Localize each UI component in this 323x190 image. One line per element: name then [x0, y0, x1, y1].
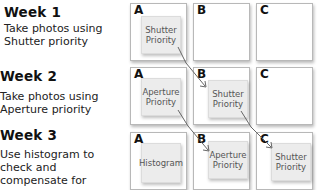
column-label-c: C — [260, 133, 269, 146]
note-aperture-priority: AperturePriority — [208, 141, 248, 179]
row2-box-a: A AperturePriority — [130, 67, 187, 125]
note-text-line1: Aperture — [209, 150, 246, 160]
column-label-b: B — [197, 68, 206, 81]
week-1-block: Week 1 Take photos using Shutter priorit… — [4, 5, 104, 48]
row3-box-b: B AperturePriority — [193, 132, 250, 190]
row1-box-b: B — [193, 3, 250, 61]
note-text-line2: Priority — [275, 162, 307, 172]
week-2-description: Take photos using Aperture priority — [0, 90, 100, 116]
column-label-c: C — [260, 68, 269, 81]
week-1-description: Take photos using Shutter priority — [4, 22, 104, 48]
note-text-line1: Histogram — [139, 158, 183, 168]
row1-box-c: C — [256, 3, 313, 61]
row2-box-c: C — [256, 67, 313, 125]
row2-box-b: B ShutterPriority — [193, 67, 250, 125]
note-shutter-priority: ShutterPriority — [208, 80, 248, 118]
note-text-line2: Priority — [145, 35, 177, 45]
note-text-line1: Shutter — [275, 152, 307, 162]
week-3-block: Week 3 Use histogram to check and compen… — [0, 128, 118, 190]
week-1-title: Week 1 — [4, 5, 104, 20]
week-2-block: Week 2 Take photos using Aperture priori… — [0, 69, 100, 116]
note-shutter-priority: ShutterPriority — [141, 16, 181, 54]
week-3-title: Week 3 — [0, 128, 118, 143]
row3-box-a: A Histogram — [130, 132, 187, 190]
note-text-line1: Aperture — [142, 87, 179, 97]
note-text-line2: Priority — [212, 99, 244, 109]
week-3-description: Use histogram to check and compensate fo… — [0, 148, 118, 190]
note-aperture-priority: AperturePriority — [141, 78, 181, 116]
week-2-title: Week 2 — [0, 69, 100, 84]
note-text-line2: Priority — [209, 160, 246, 170]
note-text-line1: Shutter — [212, 89, 244, 99]
note-shutter-priority: ShutterPriority — [271, 143, 311, 181]
note-text-line2: Priority — [142, 97, 179, 107]
column-label-b: B — [197, 4, 206, 17]
column-label-b: B — [197, 133, 206, 146]
note-histogram: Histogram — [141, 143, 181, 183]
note-text-line1: Shutter — [145, 25, 177, 35]
row1-box-a: A ShutterPriority — [130, 3, 187, 61]
column-label-c: C — [260, 4, 269, 17]
row3-box-c: C ShutterPriority — [256, 132, 313, 190]
